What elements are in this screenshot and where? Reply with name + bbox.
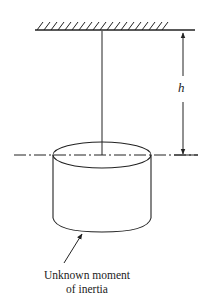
ceiling-support: [35, 22, 195, 30]
leader-arrow-icon: [64, 234, 82, 263]
caption-line-1: Unknown moment: [30, 268, 144, 282]
diagram-canvas: h Unknown moment of inertia: [0, 0, 214, 306]
diagram-drawing: [0, 0, 214, 306]
caption: Unknown moment of inertia: [30, 268, 144, 296]
caption-line-2: of inertia: [30, 282, 144, 296]
dimension-h-label: h: [178, 80, 185, 96]
